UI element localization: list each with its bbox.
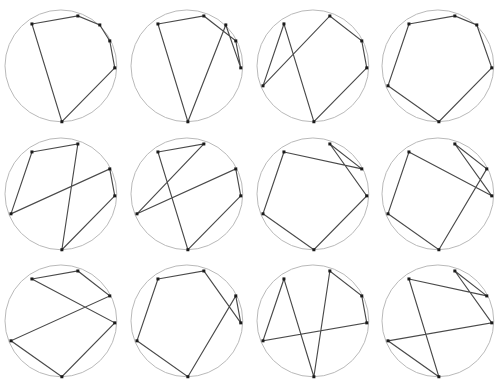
vertex-marker: [202, 142, 205, 145]
panel-9[interactable]: [0, 255, 126, 382]
vertex-marker: [328, 270, 331, 273]
vertex-marker: [454, 270, 457, 273]
vertex-marker: [156, 22, 159, 25]
inscribed-polygon-diagram: [377, 0, 503, 128]
polygon-path: [158, 16, 241, 122]
circumscribed-circle: [5, 265, 117, 377]
vertex-marker: [30, 278, 33, 281]
vertex-marker: [360, 167, 363, 170]
vertex-marker: [186, 120, 189, 123]
panel-2[interactable]: [126, 0, 252, 128]
vertex-marker: [312, 120, 315, 123]
vertex-marker: [438, 248, 441, 251]
inscribed-polygon-diagram: [252, 255, 378, 382]
vertex-marker: [365, 194, 368, 197]
vertex-marker: [454, 14, 457, 17]
vertex-marker: [491, 194, 494, 197]
panel-1[interactable]: [0, 0, 126, 128]
vertex-marker: [491, 66, 494, 69]
vertex-marker: [60, 376, 63, 379]
vertex-marker: [360, 295, 363, 298]
vertex-marker: [261, 212, 264, 215]
vertex-marker: [156, 150, 159, 153]
inscribed-polygon-diagram: [252, 128, 378, 256]
vertex-marker: [454, 142, 457, 145]
vertex-marker: [365, 66, 368, 69]
circumscribed-circle: [256, 138, 368, 250]
vertex-marker: [282, 150, 285, 153]
vertex-marker: [113, 322, 116, 325]
vertex-marker: [312, 248, 315, 251]
inscribed-polygon-diagram: [0, 255, 126, 382]
vertex-marker: [408, 278, 411, 281]
vertex-marker: [156, 278, 159, 281]
inscribed-polygon-diagram: [377, 255, 503, 382]
inscribed-polygon-diagram: [252, 0, 378, 128]
vertex-marker: [76, 14, 79, 17]
circumscribed-circle: [256, 10, 368, 122]
vertex-marker: [239, 194, 242, 197]
vertex-marker: [486, 295, 489, 298]
circumscribed-circle: [382, 138, 494, 250]
vertex-marker: [234, 295, 237, 298]
vertex-marker: [408, 150, 411, 153]
vertex-marker: [113, 66, 116, 69]
vertex-marker: [476, 23, 479, 26]
vertex-marker: [76, 270, 79, 273]
polygon-path: [32, 16, 115, 122]
panel-4[interactable]: [377, 0, 503, 128]
vertex-marker: [108, 167, 111, 170]
vertex-marker: [224, 23, 227, 26]
circumscribed-circle: [5, 10, 117, 122]
vertex-marker: [76, 142, 79, 145]
vertex-marker: [387, 84, 390, 87]
vertex-marker: [135, 340, 138, 343]
vertex-marker: [360, 39, 363, 42]
vertex-marker: [365, 322, 368, 325]
vertex-marker: [328, 142, 331, 145]
vertex-marker: [202, 14, 205, 17]
vertex-marker: [202, 270, 205, 273]
vertex-marker: [108, 39, 111, 42]
panel-8[interactable]: [377, 128, 503, 256]
inscribed-polygon-diagram: [126, 255, 252, 382]
vertex-marker: [387, 212, 390, 215]
panel-10[interactable]: [126, 255, 252, 382]
panel-7[interactable]: [252, 128, 378, 256]
panel-6[interactable]: [126, 128, 252, 256]
vertex-marker: [60, 248, 63, 251]
vertex-marker: [438, 120, 441, 123]
vertex-marker: [408, 22, 411, 25]
panel-11[interactable]: [252, 255, 378, 382]
polygon-panel-grid: [0, 0, 503, 382]
vertex-marker: [239, 66, 242, 69]
vertex-marker: [328, 14, 331, 17]
vertex-marker: [186, 376, 189, 379]
circumscribed-circle: [131, 138, 243, 250]
panel-5[interactable]: [0, 128, 126, 256]
vertex-marker: [486, 167, 489, 170]
inscribed-polygon-diagram: [0, 128, 126, 256]
vertex-marker: [491, 322, 494, 325]
inscribed-polygon-diagram: [126, 128, 252, 256]
vertex-marker: [282, 22, 285, 25]
vertex-marker: [30, 22, 33, 25]
vertex-marker: [30, 150, 33, 153]
panel-12[interactable]: [377, 255, 503, 382]
inscribed-polygon-diagram: [126, 0, 252, 128]
vertex-marker: [312, 376, 315, 379]
vertex-marker: [234, 39, 237, 42]
vertex-marker: [113, 194, 116, 197]
circumscribed-circle: [256, 265, 368, 377]
vertex-marker: [438, 376, 441, 379]
inscribed-polygon-diagram: [377, 128, 503, 256]
vertex-marker: [9, 212, 12, 215]
circumscribed-circle: [5, 138, 117, 250]
vertex-marker: [239, 322, 242, 325]
vertex-marker: [108, 295, 111, 298]
vertex-marker: [135, 212, 138, 215]
vertex-marker: [387, 340, 390, 343]
vertex-marker: [186, 248, 189, 251]
inscribed-polygon-diagram: [0, 0, 126, 128]
panel-3[interactable]: [252, 0, 378, 128]
